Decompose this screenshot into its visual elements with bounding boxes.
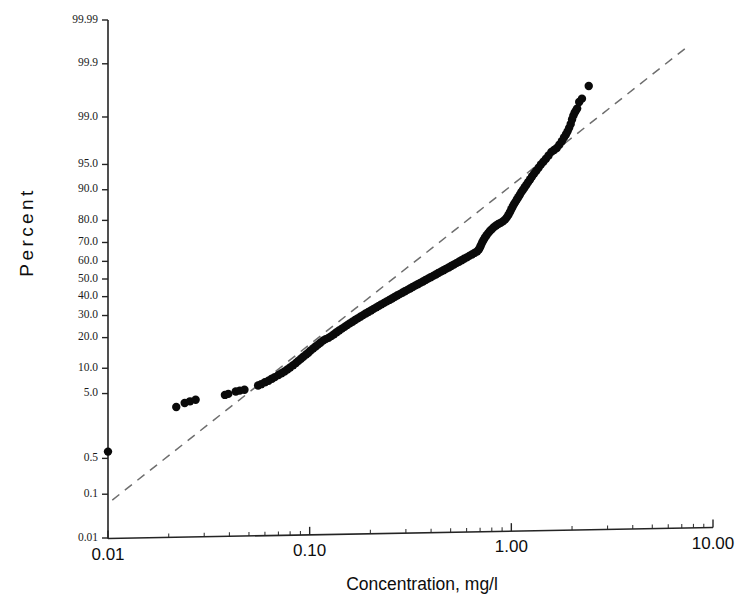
x-axis-tick-labels: 0.010.101.0010.00 (91, 534, 734, 564)
y-tick-label: 0.5 (84, 451, 99, 463)
y-tick-label: 0.1 (84, 487, 99, 499)
y-tick-label: 70.0 (78, 235, 98, 247)
x-tick-label: 1.00 (495, 537, 528, 556)
data-point (585, 82, 593, 90)
y-tick-label: 99.0 (78, 110, 98, 122)
x-axis-line (108, 528, 713, 539)
data-point (224, 390, 232, 398)
y-tick-label: 80.0 (78, 213, 98, 225)
x-axis-title: Concentration, mg/l (346, 574, 498, 594)
data-point-series (104, 82, 593, 456)
data-point (191, 396, 199, 404)
y-axis-title: Percent (16, 187, 37, 276)
data-point (172, 403, 180, 411)
y-tick-label: 99.9 (78, 56, 98, 68)
probability-plot-figure: 99.9999.999.095.090.080.070.060.050.040.… (0, 0, 749, 609)
y-tick-label: 95.0 (78, 157, 98, 169)
data-point (578, 94, 586, 102)
y-tick-label: 30.0 (78, 308, 98, 320)
y-tick-label: 50.0 (78, 272, 98, 284)
data-point (104, 447, 112, 455)
y-tick-label: 5.0 (84, 386, 99, 398)
chart-canvas: 99.9999.999.095.090.080.070.060.050.040.… (0, 0, 749, 609)
reference-line (112, 46, 689, 501)
y-tick-label: 0.01 (78, 531, 98, 543)
y-tick-label: 90.0 (78, 182, 98, 194)
y-axis-tick-marks (102, 20, 108, 538)
x-tick-label: 0.01 (91, 545, 124, 564)
y-tick-label: 10.0 (78, 361, 98, 373)
data-point (240, 385, 248, 393)
x-tick-label: 0.10 (293, 541, 326, 560)
y-axis-tick-labels: 99.9999.999.095.090.080.070.060.050.040.… (72, 13, 98, 543)
y-tick-label: 60.0 (78, 254, 98, 266)
y-tick-label: 99.99 (72, 13, 98, 25)
x-tick-label: 10.00 (692, 534, 735, 553)
y-tick-label: 20.0 (78, 330, 98, 342)
y-tick-label: 40.0 (78, 289, 98, 301)
